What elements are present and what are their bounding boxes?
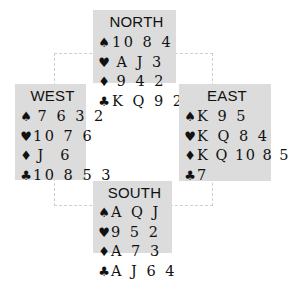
south-spades-row: ♠A Q J [97, 203, 172, 223]
diamond-icon: ♦ [183, 147, 197, 166]
north-hearts: A J 3 [116, 54, 164, 70]
heart-icon: ♥ [97, 54, 111, 73]
spade-icon: ♠ [97, 34, 111, 53]
south-diamonds: A 7 3 [111, 243, 162, 259]
south-hearts: 9 5 2 [111, 224, 160, 240]
west-spades: 7 6 3 2 [38, 108, 106, 124]
spade-icon: ♠ [97, 204, 111, 223]
south-clubs-row: ♣A J 6 4 [97, 262, 172, 281]
hand-north: NORTH ♠10 8 4 ♥ A J 3 ♦ 9 4 2 ♣K Q 9 2 [93, 10, 176, 83]
hand-west: WEST ♠ 7 6 3 2 ♥10 7 6 ♦ J 6 ♣10 8 5 3 [15, 84, 86, 180]
east-spades-row: ♠K 9 5 [183, 107, 271, 127]
north-clubs-row: ♣K Q 9 2 [97, 92, 176, 112]
hand-north-label: NORTH [97, 13, 176, 31]
west-clubs-row: ♣10 8 5 3 [19, 166, 86, 186]
west-hearts: 10 7 6 [33, 128, 94, 144]
east-hearts-row: ♥K Q 8 4 [183, 127, 271, 147]
east-clubs: 7 [197, 167, 209, 183]
heart-icon: ♥ [19, 128, 33, 147]
club-icon: ♣ [183, 167, 197, 186]
diamond-icon: ♦ [97, 73, 111, 92]
west-diamonds: J 6 [38, 147, 72, 163]
south-diamonds-row: ♦A 7 3 [97, 242, 172, 262]
hand-east: EAST ♠K 9 5 ♥K Q 8 4 ♦K Q 10 8 5 ♣7 [179, 84, 271, 181]
north-diamonds-row: ♦ 9 4 2 [97, 72, 176, 92]
west-hearts-row: ♥10 7 6 [19, 127, 86, 147]
hand-south: SOUTH ♠A Q J ♥9 5 2 ♦A 7 3 ♣A J 6 4 [93, 181, 172, 253]
south-clubs: A J 6 4 [111, 263, 177, 279]
club-icon: ♣ [19, 167, 33, 186]
hand-east-label: EAST [183, 87, 271, 105]
heart-icon: ♥ [183, 128, 197, 147]
east-clubs-row: ♣7 [183, 166, 271, 186]
spade-icon: ♠ [183, 108, 197, 127]
east-diamonds-row: ♦K Q 10 8 5 [183, 146, 271, 166]
north-clubs: K Q 9 2 [111, 93, 185, 109]
east-diamonds: K Q 10 8 5 [197, 147, 290, 163]
west-spades-row: ♠ 7 6 3 2 [19, 107, 86, 127]
east-spades: K 9 5 [197, 108, 248, 124]
club-icon: ♣ [97, 263, 111, 281]
hand-west-label: WEST [19, 87, 86, 105]
heart-icon: ♥ [97, 224, 111, 243]
hand-south-label: SOUTH [97, 184, 172, 202]
diamond-icon: ♦ [97, 243, 111, 262]
spade-icon: ♠ [19, 108, 33, 127]
north-hearts-row: ♥ A J 3 [97, 53, 176, 73]
north-spades: 10 8 4 [111, 34, 173, 50]
north-spades-row: ♠10 8 4 [97, 33, 176, 53]
east-hearts: K Q 8 4 [197, 128, 270, 144]
south-hearts-row: ♥9 5 2 [97, 223, 172, 243]
south-spades: A Q J [111, 204, 161, 220]
west-diamonds-row: ♦ J 6 [19, 146, 86, 166]
north-diamonds: 9 4 2 [116, 73, 166, 89]
diamond-icon: ♦ [19, 147, 33, 166]
